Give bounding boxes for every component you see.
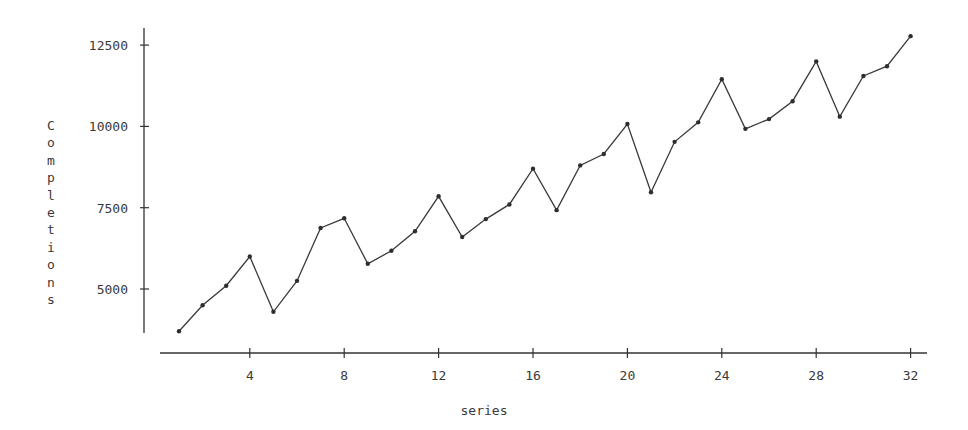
y-axis-label-letter: i	[47, 240, 55, 255]
y-axis-label-letter: o	[47, 135, 55, 150]
series-line	[179, 36, 911, 331]
x-tick-label: 4	[246, 368, 254, 383]
data-point	[743, 127, 747, 131]
data-point	[200, 303, 204, 307]
y-tick-label: 7500	[97, 201, 128, 216]
data-point	[295, 279, 299, 283]
y-axis-label-letter: C	[47, 118, 55, 133]
x-tick-label: 32	[903, 368, 919, 383]
data-point	[672, 140, 676, 144]
x-axis-label: series	[461, 403, 508, 418]
data-point	[814, 59, 818, 63]
y-axis-label-letter: s	[47, 292, 55, 307]
data-point	[366, 262, 370, 266]
data-point	[413, 229, 417, 233]
data-point	[720, 77, 724, 81]
data-point	[342, 216, 346, 220]
data-point	[861, 74, 865, 78]
y-axis-label-letter: n	[47, 275, 55, 290]
data-point	[177, 329, 181, 333]
y-axis-label-letter: p	[47, 170, 55, 185]
x-tick-label: 20	[620, 368, 636, 383]
x-axis: 48121620242832	[160, 348, 927, 383]
y-axis-label-letter: t	[47, 222, 55, 237]
data-point	[318, 226, 322, 230]
data-point	[885, 64, 889, 68]
y-axis-label-letter: m	[47, 153, 55, 168]
data-point	[790, 99, 794, 103]
chart-canvas: 500075001000012500 48121620242832 series…	[0, 0, 968, 430]
y-axis-label-letter: o	[47, 257, 55, 272]
data-point	[578, 163, 582, 167]
data-point	[271, 310, 275, 314]
data-point	[389, 249, 393, 253]
y-axis-label-letter: l	[47, 188, 55, 203]
line-chart: 500075001000012500 48121620242832 series…	[0, 0, 968, 430]
x-tick-label: 8	[340, 368, 348, 383]
data-point	[625, 122, 629, 126]
x-tick-label: 12	[431, 368, 447, 383]
x-tick-label: 24	[714, 368, 730, 383]
y-tick-label: 5000	[97, 282, 128, 297]
data-point	[248, 254, 252, 258]
data-point	[460, 235, 464, 239]
data-point	[838, 114, 842, 118]
data-point	[908, 34, 912, 38]
data-point	[554, 208, 558, 212]
data-point	[436, 194, 440, 198]
data-point	[696, 120, 700, 124]
y-axis-label-letter: e	[47, 205, 55, 220]
x-tick-label: 16	[525, 368, 541, 383]
y-tick-label: 10000	[89, 119, 128, 134]
y-axis: 500075001000012500	[89, 28, 149, 333]
data-point	[649, 190, 653, 194]
data-point	[484, 217, 488, 221]
data-point	[602, 152, 606, 156]
data-point	[531, 166, 535, 170]
y-tick-label: 12500	[89, 38, 128, 53]
x-tick-label: 28	[808, 368, 824, 383]
plot-area	[177, 34, 913, 334]
y-axis-label: Completions	[47, 118, 55, 307]
data-point	[224, 284, 228, 288]
data-point	[767, 117, 771, 121]
data-point	[507, 202, 511, 206]
